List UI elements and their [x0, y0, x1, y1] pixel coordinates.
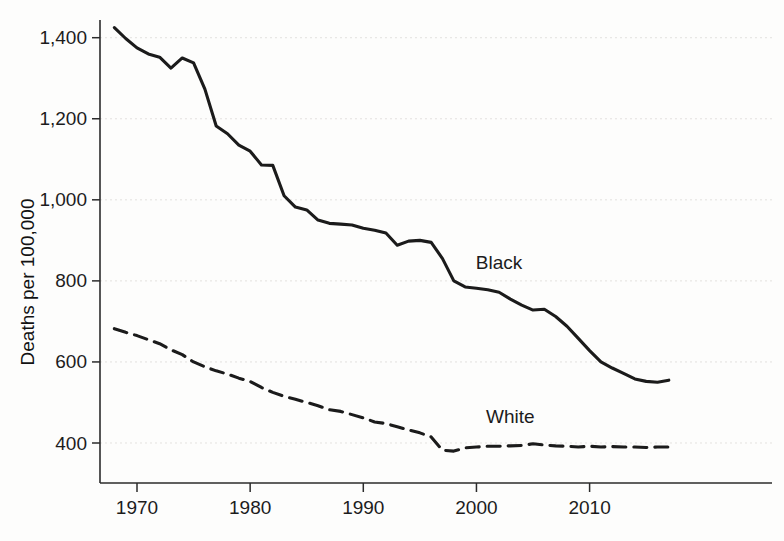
y-tick-label: 1,400 [39, 27, 87, 48]
x-tick-label: 1990 [342, 497, 384, 518]
series-line-black [114, 28, 668, 383]
y-tick-label: 400 [55, 433, 87, 454]
series-group [114, 28, 668, 452]
series-labels-group: BlackWhite [476, 252, 535, 427]
series-label-white: White [486, 406, 535, 427]
x-tick-label: 2010 [568, 497, 610, 518]
chart-figure: 4006008001,0001,2001,400 197019801990200… [0, 0, 784, 541]
gridlines-group [100, 38, 772, 443]
x-tick-label: 2000 [455, 497, 497, 518]
y-tick-label: 1,000 [39, 189, 87, 210]
x-tick-label: 1970 [116, 497, 158, 518]
x-axis-ticks-group: 19701980199020002010 [116, 483, 611, 518]
series-label-black: Black [476, 252, 523, 273]
x-tick-label: 1980 [229, 497, 271, 518]
y-tick-label: 800 [55, 270, 87, 291]
y-axis-ticks-group: 4006008001,0001,2001,400 [39, 27, 100, 453]
line-chart-svg: 4006008001,0001,2001,400 197019801990200… [0, 0, 784, 541]
y-tick-label: 600 [55, 351, 87, 372]
y-tick-label: 1,200 [39, 108, 87, 129]
y-axis-title: Deaths per 100,000 [17, 199, 38, 366]
